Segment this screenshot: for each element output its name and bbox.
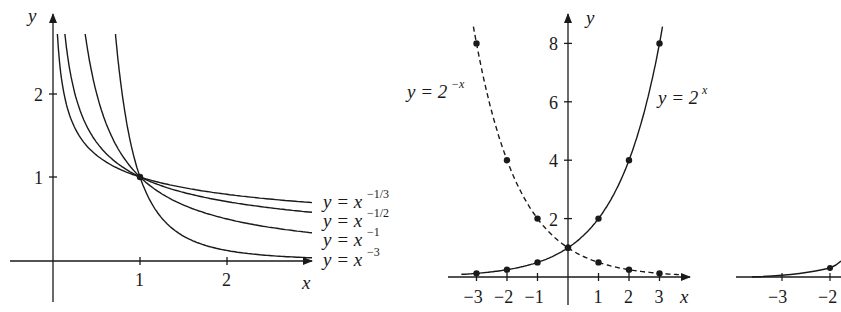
svg-text:y = 2: y = 2 — [405, 81, 448, 102]
x-axis-label: x — [301, 272, 311, 293]
x-tick-label: 2 — [624, 287, 633, 307]
axes — [448, 14, 690, 305]
x-tick-label-neg2: −2 — [818, 287, 837, 307]
curve-1 — [57, 34, 312, 203]
svg-text:−x: −x — [451, 77, 465, 91]
svg-text:−1/2: −1/2 — [367, 206, 389, 220]
data-point — [827, 265, 833, 271]
curve-label-2-to-neg-x: y = 2 −x — [405, 77, 465, 102]
data-point — [565, 245, 571, 251]
data-point — [504, 267, 510, 273]
power-curves — [57, 34, 312, 258]
y-tick-label: 6 — [549, 93, 558, 113]
curve-4 — [116, 34, 313, 258]
x-axis-label: x — [679, 286, 689, 307]
data-point — [473, 270, 479, 276]
data-point — [595, 215, 601, 221]
y-tick-label: 2 — [549, 210, 558, 230]
x-tick-label: −1 — [525, 287, 544, 307]
svg-text:−1: −1 — [367, 225, 380, 239]
partial-third-chart: −3 −2 — [736, 261, 841, 307]
curve-2-to-neg-x — [473, 27, 681, 275]
x-tick-label: −2 — [494, 287, 513, 307]
curve-2 — [65, 34, 312, 212]
y-tick-label: 4 — [549, 151, 558, 171]
data-point — [626, 267, 632, 273]
x-tick-label: 1 — [594, 287, 603, 307]
y-tick-label-2: 2 — [34, 85, 43, 105]
data-point — [534, 215, 540, 221]
x-tick-labels: −3−2−1123 — [464, 287, 664, 307]
y-tick-labels: 2468 — [549, 34, 558, 229]
data-point — [504, 157, 510, 163]
y-tick-label-1: 1 — [34, 168, 43, 188]
y-axis-label: y — [26, 5, 37, 26]
curve-2-to-x — [461, 27, 662, 275]
svg-text:y = x: y = x — [321, 229, 363, 250]
curve-label-x-neg-three: y = x −3 — [321, 245, 380, 270]
svg-text:y = 2: y = 2 — [656, 87, 699, 108]
curve-3 — [85, 34, 312, 233]
data-point — [626, 157, 632, 163]
svg-text:−1/3: −1/3 — [367, 187, 389, 201]
svg-text:y = x: y = x — [321, 249, 363, 270]
data-point — [473, 40, 479, 46]
svg-text:−3: −3 — [367, 245, 380, 259]
data-point — [595, 259, 601, 265]
y-tick-label: 8 — [549, 34, 558, 54]
svg-text:x: x — [701, 83, 708, 97]
y-axis-label: y — [584, 7, 595, 28]
x-tick-label-1: 1 — [135, 270, 144, 290]
data-point — [534, 259, 540, 265]
svg-text:y = x: y = x — [321, 210, 363, 231]
axes — [10, 14, 312, 302]
data-point — [656, 40, 662, 46]
power-functions-chart: y x 1 2 1 2 y = x −1/3 y = x −1/2 y = x … — [10, 5, 389, 302]
x-tick-label: −3 — [464, 287, 483, 307]
x-tick-label-neg3: −3 — [768, 287, 787, 307]
svg-text:y = x: y = x — [321, 191, 363, 212]
data-point — [656, 270, 662, 276]
curve-label-2-to-x: y = 2 x — [656, 83, 708, 108]
intersection-point — [137, 174, 143, 180]
x-tick-label-2: 2 — [222, 270, 231, 290]
exponential-functions-chart: y x −3−2−1123 2468 y = 2 x y = 2 −x — [405, 7, 708, 307]
x-tick-label: 3 — [655, 287, 664, 307]
figure-canvas: y x 1 2 1 2 y = x −1/3 y = x −1/2 y = x … — [0, 0, 841, 312]
